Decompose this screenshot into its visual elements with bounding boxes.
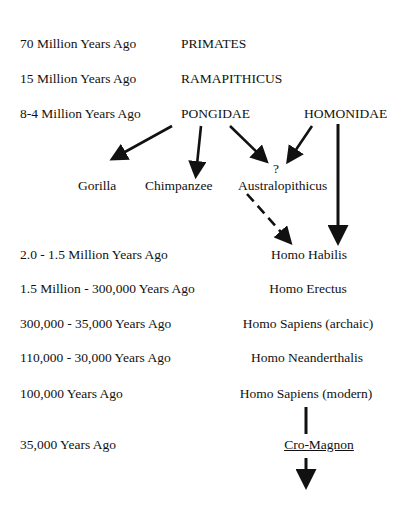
taxon-homo-erectus: Homo Erectus xyxy=(269,281,347,297)
uncertain-marker: ? xyxy=(273,161,279,177)
branch-australopithicus: Australopithicus xyxy=(238,178,327,194)
period-label: 300,000 - 35,000 Years Ago xyxy=(20,316,171,332)
taxon-homonidae: HOMONIDAE xyxy=(304,106,387,122)
taxon-cro-magnon: Cro-Magnon xyxy=(284,437,354,453)
arrow-homonidae-australopithicus xyxy=(289,126,312,160)
arrow-australopithicus-habilis-dashed xyxy=(247,194,289,241)
taxon-homo-sapiens-modern: Homo Sapiens (modern) xyxy=(240,386,373,402)
period-label: 70 Million Years Ago xyxy=(20,36,136,52)
period-label: 2.0 - 1.5 Million Years Ago xyxy=(20,247,168,263)
period-label: 15 Million Years Ago xyxy=(20,71,136,87)
taxon-pongidae: PONGIDAE xyxy=(181,106,250,122)
taxon-homo-sapiens-archaic: Homo Sapiens (archaic) xyxy=(243,316,373,332)
branch-gorilla: Gorilla xyxy=(78,178,116,194)
taxon-homo-habilis: Homo Habilis xyxy=(271,247,347,263)
period-label: 8-4 Million Years Ago xyxy=(20,106,141,122)
period-label: 100,000 Years Ago xyxy=(20,386,123,402)
arrow-pongidae-australopithicus xyxy=(230,126,265,160)
taxon-ramapithicus: RAMAPITHICUS xyxy=(181,71,282,87)
arrow-pongidae-gorilla xyxy=(114,126,172,158)
arrow-pongidae-chimpanzee xyxy=(196,126,201,174)
taxon-primates: PRIMATES xyxy=(181,36,246,52)
taxon-homo-neanderthalis: Homo Neanderthalis xyxy=(251,350,363,366)
period-label: 110,000 - 30,000 Years Ago xyxy=(20,350,171,366)
period-label: 35,000 Years Ago xyxy=(20,437,116,453)
period-label: 1.5 Million - 300,000 Years Ago xyxy=(20,281,195,297)
branch-chimpanzee: Chimpanzee xyxy=(145,178,212,194)
